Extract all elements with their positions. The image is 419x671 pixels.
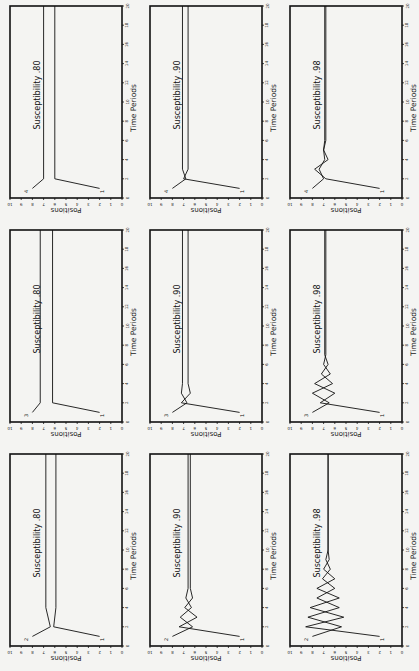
x-tick-label: 6: [405, 139, 410, 142]
series-label: 1: [379, 414, 385, 417]
y-tick-label: 8: [311, 426, 314, 431]
x-tick-label: 4: [405, 382, 410, 385]
x-tick-label: 20: [125, 451, 130, 457]
x-tick-label: 20: [265, 451, 270, 457]
x-tick-label: 6: [405, 363, 410, 366]
panel-title: Susceptibility .90: [173, 285, 182, 354]
y-tick-label: 2: [98, 426, 101, 431]
y-tick-label: 0: [120, 650, 123, 655]
panel-title: Susceptibility .98: [313, 285, 322, 354]
series-label: 2: [303, 638, 309, 641]
x-tick-label: 18: [125, 246, 130, 252]
x-tick-label: 4: [125, 382, 130, 385]
y-tick-label: 10: [147, 202, 153, 207]
x-tick-label: 0: [405, 420, 410, 423]
series-line: [184, 6, 240, 188]
x-axis-label: Time Periods: [269, 84, 278, 133]
x-tick-label: 16: [125, 41, 130, 47]
x-tick-label: 16: [405, 489, 410, 495]
x-tick-label: 14: [125, 285, 130, 291]
x-tick-label: 18: [265, 22, 270, 28]
y-tick-label: 1: [389, 202, 392, 207]
y-tick-label: 1: [109, 426, 112, 431]
y-tick-label: 2: [378, 650, 381, 655]
y-tick-label: 10: [7, 650, 13, 655]
x-tick-label: 0: [125, 420, 130, 423]
x-tick-label: 18: [405, 246, 410, 252]
y-tick-label: 2: [378, 202, 381, 207]
y-axis-label: Positions: [190, 206, 221, 214]
series-label: 4: [163, 190, 169, 193]
x-tick-label: 6: [265, 587, 270, 590]
x-tick-label: 18: [125, 22, 130, 28]
panel-title: Susceptibility .80: [33, 61, 42, 130]
y-tick-label: 9: [299, 426, 302, 431]
x-axis-label: Time Periods: [269, 308, 278, 357]
x-tick-label: 20: [265, 3, 270, 9]
y-tick-label: 1: [109, 202, 112, 207]
y-tick-label: 7: [182, 650, 185, 655]
y-tick-label: 9: [159, 650, 162, 655]
y-tick-label: 2: [238, 202, 241, 207]
panel-title: Susceptibility .80: [33, 509, 42, 578]
y-tick-label: 9: [19, 650, 22, 655]
y-tick-label: 0: [400, 426, 403, 431]
y-tick-label: 2: [238, 650, 241, 655]
line-chart-panel: 01234567891002468101214161820PositionsTi…: [140, 448, 280, 671]
y-tick-label: 7: [42, 426, 45, 431]
x-tick-label: 2: [265, 401, 270, 404]
x-tick-label: 6: [125, 363, 130, 366]
x-tick-label: 16: [265, 265, 270, 271]
x-tick-label: 2: [405, 401, 410, 404]
x-tick-label: 18: [265, 246, 270, 252]
y-axis-label: Positions: [50, 430, 81, 438]
y-tick-label: 8: [31, 426, 34, 431]
y-tick-label: 10: [147, 426, 153, 431]
x-axis-label: Time Periods: [129, 308, 138, 357]
series-label: 4: [303, 190, 309, 193]
y-tick-label: 7: [322, 426, 325, 431]
series-line: [54, 454, 100, 636]
y-tick-label: 9: [19, 426, 22, 431]
series-label: 2: [23, 638, 29, 641]
x-axis-label: Time Periods: [129, 84, 138, 133]
y-tick-label: 1: [389, 426, 392, 431]
y-tick-label: 10: [287, 426, 293, 431]
y-axis-label: Positions: [50, 206, 81, 214]
x-axis-label: Time Periods: [269, 532, 278, 581]
y-tick-label: 1: [249, 650, 252, 655]
x-tick-label: 16: [405, 41, 410, 47]
line-chart-panel: 01234567891002468101214161820PositionsTi…: [0, 448, 140, 671]
y-tick-label: 2: [238, 426, 241, 431]
y-tick-label: 2: [98, 202, 101, 207]
plot-frame: [150, 6, 262, 198]
x-tick-label: 14: [265, 509, 270, 515]
series-label: 3: [163, 414, 169, 417]
x-tick-label: 2: [265, 625, 270, 628]
x-tick-label: 6: [265, 363, 270, 366]
x-axis-label: Time Periods: [129, 532, 138, 581]
y-tick-label: 0: [400, 202, 403, 207]
y-tick-label: 3: [227, 650, 230, 655]
panel-title: Susceptibility .98: [313, 61, 322, 130]
x-tick-label: 20: [265, 227, 270, 233]
y-tick-label: 9: [19, 202, 22, 207]
y-tick-label: 0: [120, 202, 123, 207]
x-tick-label: 2: [265, 177, 270, 180]
x-tick-label: 2: [125, 177, 130, 180]
y-tick-label: 3: [227, 202, 230, 207]
x-tick-label: 6: [265, 139, 270, 142]
x-axis-label: Time Periods: [409, 84, 418, 133]
plot-frame: [10, 6, 122, 198]
y-tick-label: 7: [182, 426, 185, 431]
x-tick-label: 0: [405, 644, 410, 647]
y-tick-label: 1: [389, 650, 392, 655]
series-label: 3: [23, 414, 29, 417]
y-tick-label: 3: [367, 650, 370, 655]
x-tick-label: 14: [265, 285, 270, 291]
line-chart-panel: 01234567891002468101214161820PositionsTi…: [0, 0, 140, 223]
y-tick-label: 7: [182, 202, 185, 207]
x-tick-label: 20: [405, 451, 410, 457]
y-tick-label: 8: [311, 650, 314, 655]
series-label: 1: [99, 638, 105, 641]
